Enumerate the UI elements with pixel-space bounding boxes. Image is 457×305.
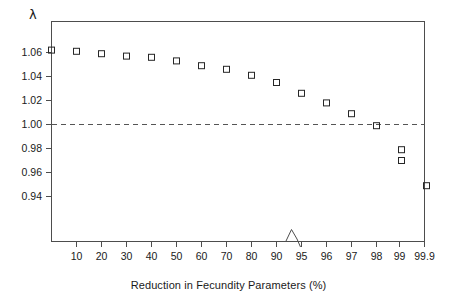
x-tick-label-4: 50 — [171, 250, 183, 262]
data-point-90 — [274, 80, 280, 86]
x-axis-title: Reduction in Fecundity Parameters (%) — [0, 279, 457, 291]
y-tick-label-5: 1.04 — [22, 70, 43, 82]
x-tick-label-1: 20 — [96, 250, 108, 262]
scatter-plot-canvas: 0.94 0.96 0.98 1.00 1.02 1.04 1.06 — [0, 0, 457, 305]
x-tick-label-3: 40 — [146, 250, 158, 262]
x-tick-label-9: 95 — [296, 250, 308, 262]
data-point-50 — [174, 58, 180, 64]
x-tick-label-10: 96 — [321, 250, 333, 262]
y-tick-label-4: 1.02 — [22, 94, 43, 106]
y-tick-label-2: 0.98 — [22, 142, 43, 154]
data-point-extra-0 — [399, 158, 405, 164]
y-tick-label-3: 1.00 — [22, 118, 43, 130]
data-marker-series — [49, 47, 430, 189]
x-tick-label-6: 70 — [221, 250, 233, 262]
x-tick-label-12: 98 — [371, 250, 383, 262]
data-point-70 — [224, 66, 230, 72]
data-point-30 — [124, 53, 130, 59]
axis-break-zigzag-icon — [286, 230, 301, 248]
x-axis-tick-labels: 10 20 30 40 50 60 70 80 90 95 96 97 98 9… — [71, 250, 435, 262]
data-point-96 — [324, 100, 330, 106]
y-tick-label-0: 0.94 — [22, 190, 43, 202]
data-point-80 — [249, 72, 255, 78]
data-point-20 — [99, 51, 105, 57]
y-tick-label-1: 0.96 — [22, 166, 43, 178]
data-point-40 — [149, 54, 155, 60]
x-axis-ticks — [77, 242, 425, 248]
x-tick-label-11: 97 — [346, 250, 358, 262]
x-tick-label-5: 60 — [196, 250, 208, 262]
x-tick-label-8: 90 — [271, 250, 283, 262]
y-axis-tick-labels: 0.94 0.96 0.98 1.00 1.02 1.04 1.06 — [22, 46, 43, 202]
x-tick-label-13: 99 — [394, 250, 406, 262]
y-axis-ticks — [46, 53, 52, 197]
y-tick-label-6: 1.06 — [22, 46, 43, 58]
x-tick-label-0: 10 — [71, 250, 83, 262]
data-point-10 — [74, 48, 80, 54]
x-tick-label-7: 80 — [246, 250, 258, 262]
x-tick-label-14: 99.9 — [414, 250, 435, 262]
data-point-98 — [374, 123, 380, 129]
data-point-99 — [399, 147, 405, 153]
x-tick-label-2: 30 — [121, 250, 133, 262]
data-point-97 — [349, 111, 355, 117]
chart-figure: λ 0.94 0.96 0.98 1.00 1.02 1.04 1.06 — [0, 0, 457, 305]
data-point-60 — [199, 63, 205, 69]
data-point-95 — [299, 90, 305, 96]
plot-frame — [52, 22, 425, 242]
